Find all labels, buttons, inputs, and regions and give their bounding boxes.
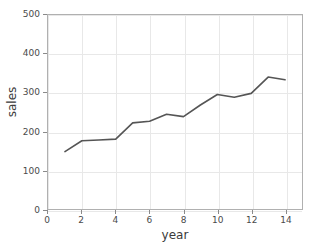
x-tick-label-8: 8 xyxy=(169,216,199,225)
x-tick-label-12: 12 xyxy=(237,216,267,225)
sales-line-series xyxy=(65,77,285,151)
x-tick-mark-4 xyxy=(115,210,116,214)
gridline-y-0 xyxy=(48,211,302,212)
y-tick-label-100: 100 xyxy=(23,167,40,176)
x-tick-mark-12 xyxy=(252,210,253,214)
y-tick-mark-100 xyxy=(43,171,47,172)
x-tick-label-2: 2 xyxy=(66,216,96,225)
x-tick-mark-2 xyxy=(81,210,82,214)
x-tick-mark-6 xyxy=(149,210,150,214)
x-tick-mark-10 xyxy=(218,210,219,214)
y-tick-label-300: 300 xyxy=(23,88,40,97)
x-tick-label-14: 14 xyxy=(271,216,301,225)
x-tick-label-0: 0 xyxy=(32,216,62,225)
y-axis-label: sales xyxy=(5,72,19,132)
chart-figure: 0100200300400500 02468101214 year sales xyxy=(0,0,324,252)
x-tick-mark-14 xyxy=(286,210,287,214)
y-tick-label-200: 200 xyxy=(23,128,40,137)
x-tick-label-4: 4 xyxy=(100,216,130,225)
y-tick-mark-400 xyxy=(43,53,47,54)
plot-area xyxy=(47,14,303,210)
y-tick-label-500: 500 xyxy=(23,10,40,19)
x-tick-label-6: 6 xyxy=(134,216,164,225)
y-tick-mark-300 xyxy=(43,92,47,93)
data-line-layer xyxy=(48,15,302,209)
x-tick-mark-0 xyxy=(47,210,48,214)
x-tick-mark-8 xyxy=(184,210,185,214)
x-tick-label-10: 10 xyxy=(203,216,233,225)
x-axis-label: year xyxy=(47,228,303,242)
y-tick-label-400: 400 xyxy=(23,49,40,58)
y-tick-label-0: 0 xyxy=(34,206,40,215)
y-tick-mark-200 xyxy=(43,132,47,133)
y-tick-mark-500 xyxy=(43,14,47,15)
